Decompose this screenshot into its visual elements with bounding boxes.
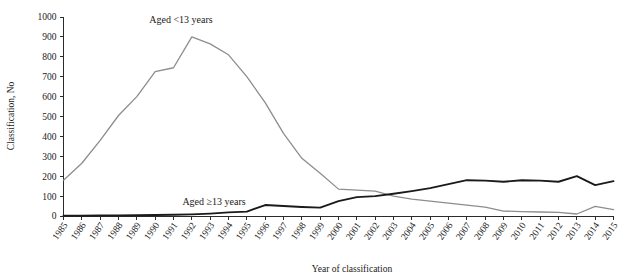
line-chart: 01002003004005006007008009001000 1985198…	[0, 0, 635, 278]
x-axis-title: Year of classification	[312, 264, 393, 274]
x-tick-label: 1994	[216, 220, 235, 242]
y-tick-label: 900	[42, 32, 57, 42]
series-annotation-aged-13-and-over: Aged ≥13 years	[182, 196, 245, 207]
y-tick-label: 600	[42, 92, 57, 102]
x-tick-label: 1988	[106, 220, 125, 242]
x-axis-tick-labels: 1985198619871988198919901991199219931994…	[51, 220, 620, 242]
x-tick-label: 2004	[399, 220, 418, 242]
x-tick-label: 2001	[344, 220, 363, 242]
x-tick-label: 2015	[601, 220, 620, 242]
x-tick-label: 1991	[161, 220, 180, 242]
x-tick-label: 1997	[271, 220, 290, 242]
x-tick-label: 2008	[472, 220, 491, 242]
y-tick-label: 200	[42, 172, 57, 182]
y-tick-label: 300	[42, 152, 57, 162]
y-tick-label: 400	[42, 132, 57, 142]
x-tick-label: 1998	[289, 220, 308, 242]
x-tick-label: 2003	[381, 220, 400, 242]
series-annotation-aged-under-13: Aged <13 years	[149, 14, 213, 25]
x-tick-label: 1996	[252, 220, 271, 242]
x-tick-label: 1999	[307, 220, 326, 242]
chart-figure: 01002003004005006007008009001000 1985198…	[0, 0, 635, 278]
y-tick-label: 700	[42, 72, 57, 82]
x-tick-label: 1992	[179, 220, 198, 242]
x-tick-label: 2005	[417, 220, 436, 242]
x-tick-label: 1995	[234, 220, 253, 242]
x-tick-label: 2000	[326, 220, 345, 242]
y-tick-label: 100	[42, 192, 57, 202]
series-line-1	[64, 176, 614, 215]
x-tick-label: 1993	[197, 220, 216, 242]
x-tick-label: 2009	[491, 220, 510, 242]
x-tick-label: 2007	[454, 220, 473, 242]
y-tick-label: 0	[52, 211, 57, 221]
series-lines	[64, 37, 614, 216]
x-tick-label: 2013	[564, 220, 583, 242]
x-tick-label: 2012	[546, 220, 565, 242]
x-tick-label: 1987	[87, 220, 106, 242]
x-tick-label: 2010	[509, 220, 528, 242]
series-line-0	[64, 37, 614, 214]
x-tick-label: 1989	[124, 220, 143, 242]
y-tick-label: 1000	[38, 12, 57, 22]
y-tick-label: 800	[42, 52, 57, 62]
x-tick-label: 2006	[436, 220, 455, 242]
x-tick-label: 2011	[527, 220, 546, 241]
y-axis-title: Classification, No	[6, 81, 16, 150]
x-tick-label: 1990	[142, 220, 161, 242]
x-tick-label: 1986	[69, 220, 88, 242]
x-tick-label: 1985	[51, 220, 70, 242]
y-axis-ticks	[60, 17, 64, 216]
x-tick-label: 2014	[582, 220, 601, 242]
x-tick-label: 2002	[362, 220, 381, 242]
y-axis-tick-labels: 01002003004005006007008009001000	[38, 12, 57, 221]
y-tick-label: 500	[42, 112, 57, 122]
